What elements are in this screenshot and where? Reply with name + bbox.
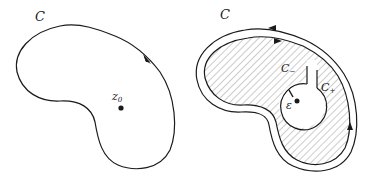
right-panel: C C− C+ ε — [183, 0, 367, 178]
contour-diagram — [0, 0, 183, 178]
center-point — [295, 99, 300, 104]
contour-c-label: C — [35, 10, 45, 23]
cut-c-minus-label: C− — [281, 63, 295, 75]
point-z0-label: z0 — [112, 91, 122, 103]
left-panel: C z0 — [0, 0, 183, 178]
contour-c — [16, 25, 174, 169]
epsilon-label: ε — [286, 100, 292, 111]
keyhole-contour-diagram — [183, 0, 367, 178]
point-z0 — [118, 105, 123, 110]
outer-contour-c-label: C — [220, 8, 230, 21]
cut-c-plus-label: C+ — [321, 82, 335, 94]
